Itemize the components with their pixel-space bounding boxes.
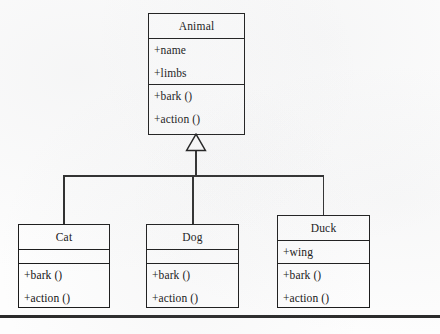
class-name-animal: Animal xyxy=(179,20,215,32)
operations-compartment-cat: +bark () +action () xyxy=(19,263,109,309)
class-name-cat: Cat xyxy=(56,231,73,243)
operation-item: +action () xyxy=(19,287,109,310)
attribute-item: +limbs xyxy=(149,62,244,85)
class-name-dog: Dog xyxy=(182,231,202,243)
class-name-compartment-duck: Duck xyxy=(278,216,369,240)
operations-compartment-duck: +bark () +action () xyxy=(278,263,369,309)
class-box-animal[interactable]: Animal +name +limbs +bark () +action () xyxy=(148,13,245,135)
attributes-compartment-dog xyxy=(147,249,238,263)
uml-class-diagram-canvas: Animal +name +limbs +bark () +action () … xyxy=(0,0,440,334)
generalization-drop-duck xyxy=(323,175,325,216)
attribute-item: +name xyxy=(149,39,244,62)
attributes-compartment-duck: +wing xyxy=(278,240,369,263)
generalization-drop-cat xyxy=(63,175,65,225)
operation-item: +action () xyxy=(278,287,369,310)
page-bottom-rule xyxy=(0,315,440,318)
operation-item: +bark () xyxy=(147,264,238,287)
class-name-duck: Duck xyxy=(311,222,337,234)
operation-item: +bark () xyxy=(19,264,109,287)
attributes-compartment-cat xyxy=(19,249,109,263)
attribute-item: +wing xyxy=(278,241,369,264)
class-box-duck[interactable]: Duck +wing +bark () +action () xyxy=(277,215,370,308)
attributes-compartment-animal: +name +limbs xyxy=(149,38,244,84)
class-name-compartment-animal: Animal xyxy=(149,14,244,38)
operation-item: +action () xyxy=(147,287,238,310)
class-name-compartment-dog: Dog xyxy=(147,225,238,249)
operation-item: +bark () xyxy=(149,85,244,108)
class-box-dog[interactable]: Dog +bark () +action () xyxy=(146,224,239,308)
operations-compartment-animal: +bark () +action () xyxy=(149,84,244,134)
operation-item: +bark () xyxy=(278,264,369,287)
generalization-triangle-arrowhead xyxy=(185,133,207,152)
operations-compartment-dog: +bark () +action () xyxy=(147,263,238,309)
class-box-cat[interactable]: Cat +bark () +action () xyxy=(18,224,110,308)
generalization-drop-dog xyxy=(192,175,194,225)
operation-item: +action () xyxy=(149,108,244,131)
generalization-trunk xyxy=(195,150,197,176)
class-name-compartment-cat: Cat xyxy=(19,225,109,249)
